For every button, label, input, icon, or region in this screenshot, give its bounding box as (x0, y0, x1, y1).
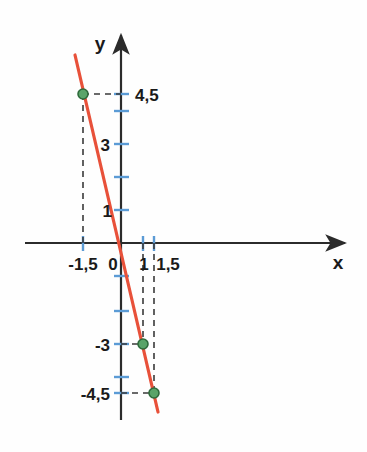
figure-canvas: y x 4,5 3 1 -3 -4,5 -1,5 0 1 1,5 (0, 0, 367, 452)
data-point-2 (138, 339, 148, 349)
y-tick-label--3: -3 (95, 336, 110, 355)
y-tick-label-3: 3 (101, 136, 110, 155)
x-tick-label--1.5: -1,5 (68, 255, 97, 274)
coordinate-plot: y x 4,5 3 1 -3 -4,5 -1,5 0 1 1,5 (0, 0, 367, 452)
x-tick-label-1.5: 1,5 (156, 255, 180, 274)
origin-label: 0 (108, 255, 117, 274)
data-point-3 (149, 388, 159, 398)
x-axis-label: x (333, 252, 344, 273)
y-tick-label-4.5: 4,5 (135, 86, 159, 105)
data-point-1 (78, 89, 88, 99)
tick-labels: 4,5 3 1 -3 -4,5 -1,5 0 1 1,5 (68, 86, 179, 404)
y-tick-label--4.5: -4,5 (81, 385, 110, 404)
function-line (75, 55, 158, 412)
axis-titles: y x (95, 33, 344, 273)
x-tick-label-1: 1 (139, 255, 148, 274)
axes-group (25, 35, 345, 420)
y-tick-label-1: 1 (103, 202, 112, 221)
y-axis-label: y (95, 33, 106, 54)
